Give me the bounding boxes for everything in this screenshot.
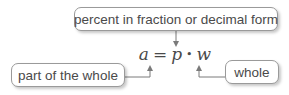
part-label: part of the whole (18, 68, 118, 83)
variable-w: w (197, 44, 212, 64)
percent-label-box: percent in fraction or decimal form (74, 7, 278, 31)
part-label-box: part of the whole (11, 63, 125, 87)
arrow-to-w (199, 68, 225, 77)
multiply-dot: • (186, 48, 193, 61)
whole-label: whole (234, 65, 269, 80)
arrow-to-a (125, 68, 150, 77)
whole-label-box: whole (225, 60, 279, 84)
percent-equation: a = p • w (140, 43, 210, 65)
percent-label: percent in fraction or decimal form (74, 12, 278, 27)
variable-a: a (139, 44, 149, 64)
variable-p: p (171, 44, 182, 64)
equals-sign: = (153, 44, 167, 64)
